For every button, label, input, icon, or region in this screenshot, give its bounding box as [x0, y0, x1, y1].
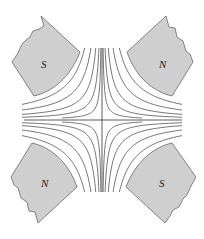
pole-label-top-right: N	[158, 58, 167, 70]
pole-top-left	[12, 16, 80, 96]
pole-label-bottom-right: S	[159, 177, 165, 189]
pole-label-bottom-left: N	[40, 177, 49, 189]
quadrupole-diagram: S N N S	[0, 0, 204, 239]
pole-label-top-left: S	[41, 58, 47, 70]
